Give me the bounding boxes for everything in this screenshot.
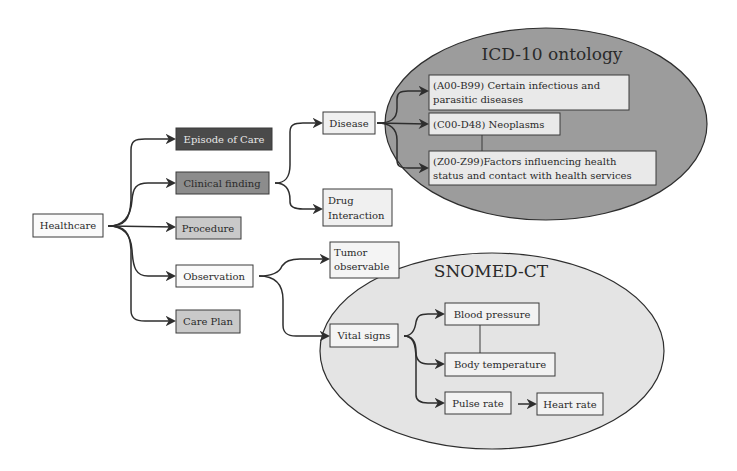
node-vital-signs-label: Vital signs: [337, 330, 391, 341]
node-icd-a00-b99-line1: (A00-B99) Certain infectious and: [433, 80, 601, 91]
node-heart-rate[interactable]: Heart rate: [537, 393, 603, 415]
node-body-temperature-label: Body temperature: [454, 359, 546, 370]
node-clinical-finding-label: Clinical finding: [183, 178, 261, 189]
node-drug-interaction-line2: Interaction: [328, 210, 385, 221]
node-tumor-observable-line2: observable: [334, 261, 389, 272]
node-observation[interactable]: Observation: [176, 265, 253, 287]
node-icd-c00-d48[interactable]: (C00-D48) Neoplasms: [429, 113, 560, 135]
healthcare-ontology-diagram: ICD-10 ontology SNOMED-CT Healthcare: [0, 0, 737, 471]
node-drug-interaction-line1: Drug: [328, 195, 354, 206]
node-healthcare-label: Healthcare: [40, 220, 97, 231]
node-icd-z00-z99-line1: (Z00-Z99)Factors influencing health: [433, 156, 617, 167]
node-episode-of-care[interactable]: Episode of Care: [176, 128, 272, 150]
clinical-edges: [275, 123, 321, 209]
node-clinical-finding[interactable]: Clinical finding: [176, 172, 269, 194]
node-blood-pressure-label: Blood pressure: [454, 309, 531, 320]
node-vital-signs[interactable]: Vital signs: [330, 324, 398, 347]
observation-edges: [259, 259, 328, 336]
node-heart-rate-label: Heart rate: [543, 399, 596, 410]
node-pulse-rate[interactable]: Pulse rate: [445, 392, 511, 414]
node-tumor-observable[interactable]: Tumor observable: [330, 242, 399, 278]
snomed-ellipse: [320, 253, 664, 449]
node-care-plan[interactable]: Care Plan: [176, 310, 240, 333]
node-drug-interaction[interactable]: Drug Interaction: [323, 189, 392, 226]
node-icd-z00-z99[interactable]: (Z00-Z99)Factors influencing health stat…: [429, 151, 656, 185]
snomed-title: SNOMED-CT: [434, 261, 549, 281]
node-icd-z00-z99-line2: status and contact with health services: [433, 170, 632, 181]
node-body-temperature[interactable]: Body temperature: [445, 353, 555, 376]
node-pulse-rate-label: Pulse rate: [452, 398, 503, 409]
root-edges: [108, 139, 174, 321]
node-disease-label: Disease: [329, 118, 368, 129]
node-icd-a00-b99-line2: parasitic diseases: [433, 94, 523, 105]
node-healthcare[interactable]: Healthcare: [33, 214, 103, 237]
node-procedure[interactable]: Procedure: [176, 217, 241, 239]
node-episode-of-care-label: Episode of Care: [184, 134, 265, 145]
node-blood-pressure[interactable]: Blood pressure: [445, 303, 539, 325]
node-tumor-observable-line1: Tumor: [334, 247, 368, 258]
node-observation-label: Observation: [183, 271, 245, 282]
node-disease[interactable]: Disease: [323, 112, 375, 134]
node-icd-c00-d48-label: (C00-D48) Neoplasms: [433, 119, 544, 130]
node-icd-a00-b99[interactable]: (A00-B99) Certain infectious and parasit…: [429, 75, 629, 110]
node-procedure-label: Procedure: [182, 223, 235, 234]
node-care-plan-label: Care Plan: [183, 316, 233, 327]
icd10-title: ICD-10 ontology: [482, 44, 623, 64]
